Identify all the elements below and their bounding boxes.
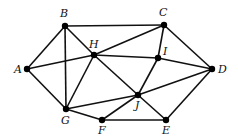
edge-j-e: [138, 95, 166, 120]
edge-c-d: [164, 25, 212, 69]
node-label-c: C: [159, 6, 168, 19]
node-f: [99, 117, 105, 123]
node-e: [163, 117, 169, 123]
node-i: [155, 55, 161, 61]
node-label-h: H: [88, 38, 99, 51]
node-label-g: G: [61, 114, 70, 127]
edge-b-c: [65, 25, 164, 26]
edge-g-f: [66, 109, 102, 120]
graph-diagram: ABCDEFGHIJ: [0, 0, 238, 140]
node-label-j: J: [133, 99, 140, 112]
edge-i-d: [158, 58, 212, 69]
node-label-i: I: [162, 45, 168, 58]
node-g: [63, 106, 69, 112]
edges: [27, 25, 212, 120]
node-d: [209, 66, 215, 72]
node-c: [161, 22, 167, 28]
node-j: [135, 92, 141, 98]
node-a: [24, 66, 30, 72]
node-label-a: A: [13, 63, 22, 76]
edge-a-g: [27, 69, 66, 109]
node-h: [91, 52, 97, 58]
edge-h-j: [94, 55, 138, 95]
node-label-d: D: [217, 63, 227, 76]
edge-h-g: [66, 55, 94, 109]
edge-c-h: [94, 25, 164, 55]
node-b: [62, 23, 68, 29]
node-label-b: B: [59, 7, 68, 20]
node-label-e: E: [161, 124, 170, 137]
node-label-f: F: [97, 124, 106, 137]
edge-h-i: [94, 55, 158, 58]
edge-b-g: [65, 26, 66, 109]
